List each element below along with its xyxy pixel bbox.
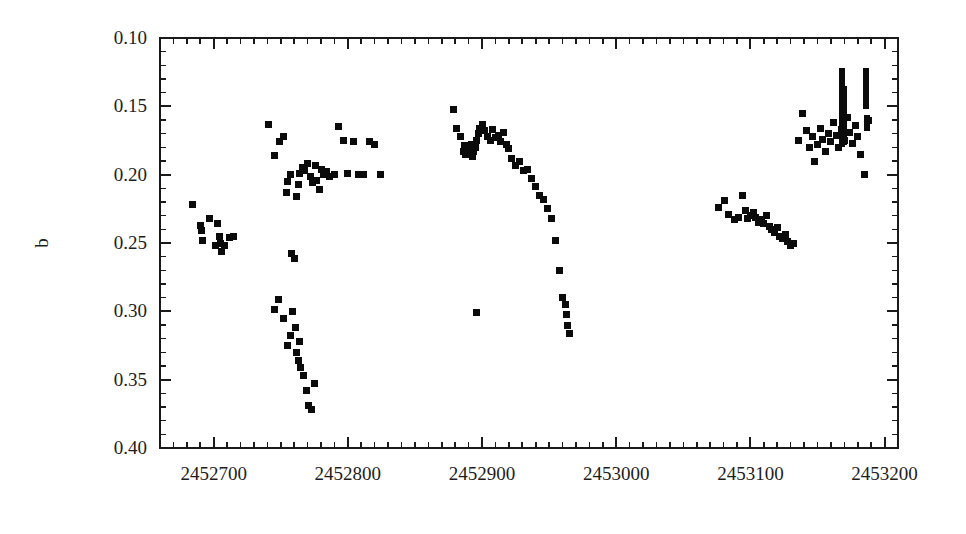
- x-tick-label: 2452700: [180, 463, 247, 484]
- data-point: [271, 152, 278, 159]
- data-point: [817, 125, 824, 132]
- data-point: [852, 122, 859, 129]
- data-point: [806, 144, 813, 151]
- y-axis-title: b: [31, 238, 52, 248]
- data-point: [331, 171, 338, 178]
- data-point: [556, 267, 563, 274]
- y-tick-label: 0.25: [114, 232, 147, 253]
- data-point: [559, 294, 566, 301]
- data-point: [763, 212, 770, 219]
- data-point: [230, 233, 237, 240]
- data-point: [827, 138, 834, 145]
- data-point: [371, 141, 378, 148]
- data-point: [524, 166, 531, 173]
- data-point: [505, 145, 512, 152]
- data-point: [340, 137, 347, 144]
- data-point: [857, 151, 864, 158]
- data-point: [377, 171, 384, 178]
- data-point: [295, 357, 302, 364]
- data-point: [544, 205, 551, 212]
- data-point: [564, 322, 571, 329]
- data-point: [283, 189, 290, 196]
- data-point: [735, 214, 742, 221]
- data-point: [284, 342, 291, 349]
- data-point: [457, 133, 464, 140]
- data-point: [198, 227, 205, 234]
- data-point: [293, 349, 300, 356]
- data-point: [790, 240, 797, 247]
- data-point: [304, 160, 311, 167]
- data-point: [292, 324, 299, 331]
- data-point: [528, 175, 535, 182]
- data-point: [280, 315, 287, 322]
- data-point: [782, 231, 789, 238]
- data-point: [296, 338, 303, 345]
- y-tick-label: 0.30: [114, 300, 147, 321]
- data-point: [313, 177, 320, 184]
- y-tick-label: 0.20: [114, 164, 147, 185]
- data-point: [275, 296, 282, 303]
- data-points-layer: [189, 68, 872, 413]
- data-point: [795, 137, 802, 144]
- data-point: [293, 193, 300, 200]
- data-point: [721, 197, 728, 204]
- figure-container: 2452700245280024529002453000245310024532…: [0, 0, 966, 534]
- y-tick-label: 0.35: [114, 369, 147, 390]
- y-tick-label: 0.10: [114, 27, 147, 48]
- data-point: [849, 140, 856, 147]
- data-point: [311, 380, 318, 387]
- data-point: [830, 119, 837, 126]
- data-point: [739, 192, 746, 199]
- data-point: [472, 144, 479, 151]
- data-point: [861, 171, 868, 178]
- y-tick-label: 0.15: [114, 95, 147, 116]
- data-point: [214, 220, 221, 227]
- data-point: [516, 158, 523, 165]
- data-point: [822, 148, 829, 155]
- data-point: [854, 133, 861, 140]
- dense-observation-bar: [863, 68, 869, 109]
- data-point: [280, 133, 287, 140]
- data-point: [799, 110, 806, 117]
- data-point: [216, 233, 223, 240]
- data-point: [532, 183, 539, 190]
- data-point: [221, 242, 228, 249]
- data-point: [809, 133, 816, 140]
- data-point: [335, 123, 342, 130]
- data-point: [287, 332, 294, 339]
- data-point: [473, 137, 480, 144]
- data-point: [825, 130, 832, 137]
- data-point: [189, 201, 196, 208]
- dense-observation-bar: [841, 86, 847, 145]
- data-point: [344, 170, 351, 177]
- data-point: [566, 330, 573, 337]
- data-point: [562, 301, 569, 308]
- data-point: [300, 372, 307, 379]
- data-point: [811, 158, 818, 165]
- data-point: [563, 311, 570, 318]
- x-tick-label: 2452900: [449, 463, 516, 484]
- data-point: [316, 186, 323, 193]
- data-point: [500, 129, 507, 136]
- data-point: [360, 171, 367, 178]
- x-tick-label: 2453000: [583, 463, 650, 484]
- data-point: [479, 121, 486, 128]
- data-point: [350, 138, 357, 145]
- data-point: [307, 173, 314, 180]
- data-point: [287, 171, 294, 178]
- dense-observation-bar: [864, 115, 870, 131]
- data-point: [552, 237, 559, 244]
- axis-labels-layer: 2452700245280024529002453000245310024532…: [31, 27, 918, 484]
- data-point: [284, 178, 291, 185]
- data-point: [453, 125, 460, 132]
- data-point: [450, 106, 457, 113]
- data-point: [774, 224, 781, 231]
- y-tick-label: 0.40: [114, 437, 147, 458]
- x-tick-label: 2453100: [717, 463, 784, 484]
- light-curve-chart: 2452700245280024529002453000245310024532…: [0, 0, 966, 534]
- data-point: [271, 306, 278, 313]
- data-point: [308, 406, 315, 413]
- x-tick-label: 2453200: [851, 463, 918, 484]
- data-point: [265, 121, 272, 128]
- data-point: [295, 181, 302, 188]
